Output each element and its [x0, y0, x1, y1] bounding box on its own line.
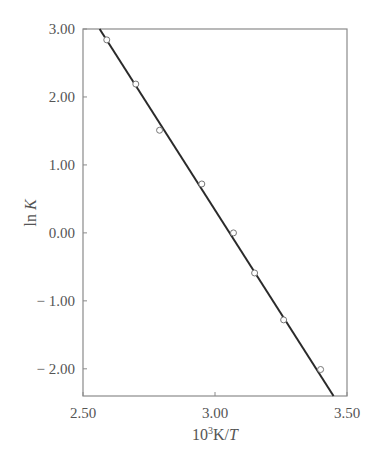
- data-point: [252, 270, 258, 276]
- y-tick-label: − 1.00: [37, 293, 75, 309]
- x-axis-label: 103K/T: [192, 425, 239, 443]
- chart: 3.002.001.000.00− 1.00− 2.00 2.503.003.5…: [0, 0, 382, 455]
- y-axis: 3.002.001.000.00− 1.00− 2.00: [37, 21, 87, 377]
- data-point: [318, 366, 324, 372]
- y-tick-label: 0.00: [49, 225, 75, 241]
- plot-area: [100, 29, 334, 396]
- data-point: [230, 230, 236, 236]
- y-tick-label: 3.00: [49, 21, 75, 37]
- plot-frame: [83, 29, 347, 396]
- data-point: [133, 81, 139, 87]
- y-tick-label: − 2.00: [37, 361, 75, 377]
- data-point: [157, 127, 163, 133]
- x-tick-label: 3.00: [202, 405, 228, 421]
- y-tick-label: 1.00: [49, 157, 75, 173]
- x-tick-label: 3.50: [334, 405, 360, 421]
- y-tick-label: 2.00: [49, 89, 75, 105]
- y-axis-label: ln K: [22, 198, 39, 226]
- data-point: [104, 37, 110, 43]
- x-tick-label: 2.50: [70, 405, 96, 421]
- data-point: [199, 181, 205, 187]
- data-point: [281, 317, 287, 323]
